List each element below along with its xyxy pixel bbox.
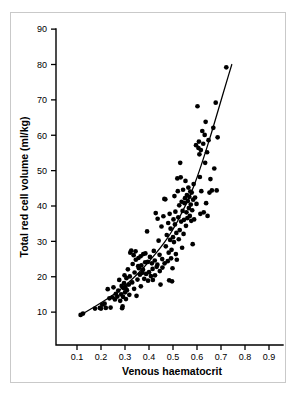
data-point: [203, 160, 208, 165]
data-point: [198, 175, 203, 180]
data-point: [126, 267, 131, 272]
x-axis-ticks: [77, 345, 269, 350]
data-point: [194, 202, 199, 207]
data-point: [213, 100, 218, 105]
y-tick-label: 10: [37, 307, 47, 317]
axis-lines: [56, 29, 283, 345]
data-point: [177, 228, 182, 233]
data-point: [133, 249, 138, 254]
data-point: [141, 267, 146, 272]
data-point: [108, 305, 113, 310]
data-point: [151, 249, 156, 254]
data-point: [180, 245, 185, 250]
data-point: [173, 209, 178, 214]
data-point: [190, 208, 195, 213]
x-axis-title: Venous haematocrit: [122, 365, 222, 377]
data-point: [163, 244, 168, 249]
data-point: [130, 280, 135, 285]
data-point: [173, 222, 178, 227]
data-point: [171, 235, 176, 240]
y-tick-label: 30: [37, 237, 47, 247]
data-point: [211, 125, 216, 130]
data-point: [195, 104, 200, 109]
data-point: [111, 285, 116, 290]
data-point: [153, 211, 158, 216]
data-point: [212, 166, 217, 171]
data-point: [203, 119, 208, 124]
data-point: [157, 252, 162, 257]
data-point: [197, 139, 202, 144]
data-point: [172, 240, 177, 245]
data-point: [138, 254, 143, 259]
data-point: [190, 242, 195, 247]
data-point: [150, 278, 155, 283]
data-point: [224, 65, 229, 70]
data-point: [193, 195, 198, 200]
y-tick-label: 80: [37, 60, 47, 70]
data-point: [178, 160, 183, 165]
data-point: [129, 248, 134, 253]
data-point: [136, 264, 141, 269]
data-point: [176, 237, 181, 242]
data-point: [205, 214, 210, 219]
data-point: [155, 216, 160, 221]
data-point: [150, 267, 155, 272]
data-point: [189, 190, 194, 195]
data-point: [134, 294, 139, 299]
data-point: [102, 301, 107, 306]
data-point: [169, 256, 174, 261]
data-point: [161, 214, 166, 219]
data-point: [105, 287, 110, 292]
data-point: [170, 279, 175, 284]
data-point: [159, 224, 164, 229]
data-point: [158, 282, 163, 287]
x-tick-label: 0.6: [191, 352, 204, 362]
x-tick-label: 0.9: [263, 352, 276, 362]
data-point: [171, 217, 176, 222]
x-tick-label: 0.3: [119, 352, 132, 362]
x-tick-label: 0.5: [167, 352, 180, 362]
data-point: [188, 202, 193, 207]
data-point: [156, 238, 161, 243]
data-point: [184, 210, 189, 215]
data-point: [192, 217, 197, 222]
data-point: [163, 197, 168, 202]
data-point: [170, 266, 175, 271]
x-tick-label: 0.7: [215, 352, 228, 362]
data-point: [166, 221, 171, 226]
y-axis-tick-labels: 102030405060708090: [37, 24, 47, 317]
figure-container: 102030405060708090 0.10.20.30.40.50.60.7…: [0, 0, 305, 396]
data-point: [146, 278, 151, 283]
data-point: [199, 189, 204, 194]
data-point: [93, 306, 98, 311]
y-tick-label: 50: [37, 166, 47, 176]
data-point: [167, 211, 172, 216]
data-point: [132, 286, 137, 291]
data-point: [197, 152, 202, 157]
data-point: [162, 261, 167, 266]
data-point: [187, 214, 192, 219]
data-point: [103, 306, 108, 311]
data-point: [214, 188, 219, 193]
y-axis-ticks: [51, 29, 56, 312]
data-point: [127, 292, 132, 297]
data-point: [152, 258, 157, 263]
data-point: [157, 269, 162, 274]
data-point: [145, 229, 150, 234]
data-point: [127, 274, 132, 279]
data-point: [210, 188, 215, 193]
data-point: [153, 273, 158, 278]
data-point: [116, 288, 121, 293]
data-point: [175, 189, 180, 194]
fitted-trend-curve: [80, 65, 232, 316]
data-point: [215, 135, 220, 140]
data-point: [178, 175, 183, 180]
data-point: [133, 257, 138, 262]
data-point: [169, 248, 174, 253]
x-tick-label: 0.8: [239, 352, 252, 362]
data-point: [208, 177, 213, 182]
y-tick-label: 90: [37, 24, 47, 34]
data-point: [132, 270, 137, 275]
x-tick-label: 0.4: [143, 352, 156, 362]
data-point: [138, 284, 143, 289]
